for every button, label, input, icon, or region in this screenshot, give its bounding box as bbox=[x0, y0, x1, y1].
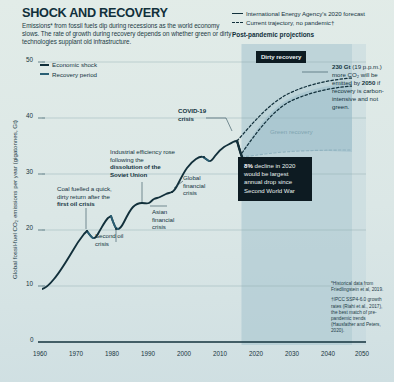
legend-label-current: Current trajectory, no pandemic† bbox=[246, 18, 334, 27]
x-tick-2040: 2040 bbox=[321, 350, 335, 357]
dashed-line-swatch-icon bbox=[232, 22, 243, 23]
x-tick-1980: 1980 bbox=[105, 350, 119, 357]
legend-label-recovery: Recovery period bbox=[52, 70, 97, 80]
legend-projections-heading: Post-pandemic projections bbox=[232, 31, 392, 38]
callout-230gt-year: 2050 bbox=[362, 79, 376, 86]
callout-230gt-value: 230 Gt bbox=[332, 63, 351, 70]
legend-item-recovery-period: Recovery period bbox=[40, 70, 97, 80]
x-tick-1960: 1960 bbox=[33, 350, 47, 357]
y-tick-0: 0 bbox=[30, 336, 34, 343]
footnote-historical-data: *Historical data from Friedlingstein et … bbox=[331, 281, 389, 293]
annotation-soviet-text: Industrial efficiency rose following the bbox=[110, 148, 175, 163]
annotation-coal-first-oil-crisis: Coal fuelled a quick, dirty return after… bbox=[57, 185, 115, 208]
legend-item-current-trajectory: Current trajectory, no pandemic† bbox=[232, 18, 392, 27]
legend-top: International Energy Agency's 2020 forec… bbox=[232, 9, 392, 38]
x-tick-2030: 2030 bbox=[285, 350, 299, 357]
annotation-global-financial-crisis: Global financial crisis bbox=[183, 174, 219, 197]
y-tick-50: 50 bbox=[26, 56, 33, 63]
y-tick-30: 30 bbox=[26, 168, 33, 175]
y-tick-40: 40 bbox=[26, 112, 33, 119]
footnote-ipcc-ssp: †IPCC SSP4-6.0 growth rates (Riahi et al… bbox=[331, 297, 389, 334]
callout-decline-value: 8% bbox=[244, 162, 253, 169]
solid-line-swatch-icon bbox=[232, 13, 243, 15]
x-tick-2020: 2020 bbox=[249, 350, 263, 357]
dirty-recovery-label: Dirty recovery bbox=[256, 51, 306, 63]
legend-item-iea: International Energy Agency's 2020 forec… bbox=[232, 9, 392, 18]
green-recovery-label: Green recovery bbox=[270, 128, 313, 135]
y-axis-title: Global fossil-fuel CO₂ emissions per yea… bbox=[11, 100, 18, 300]
chart-figure: SHOCK AND RECOVERY Emissions* from fossi… bbox=[0, 0, 394, 382]
annotation-asian-financial-crisis: Asian financial crisis bbox=[152, 208, 188, 231]
legend-left: Economic shock Recovery period bbox=[40, 60, 97, 79]
economic-shock-swatch-icon bbox=[40, 64, 49, 66]
annotation-coal-text: Coal fuelled a quick, dirty return after… bbox=[57, 185, 112, 200]
annotation-coal-bold: first oil crisis bbox=[57, 200, 95, 207]
footnotes-block: *Historical data from Friedlingstein et … bbox=[331, 281, 389, 339]
annotation-second-oil-crisis: Second oil crisis bbox=[95, 232, 135, 247]
x-tick-2010: 2010 bbox=[213, 350, 227, 357]
y-tick-marks bbox=[38, 62, 45, 286]
annotation-covid-crisis: COVID-19 crisis bbox=[178, 107, 218, 122]
legend-label-shock: Economic shock bbox=[52, 60, 97, 70]
x-tick-1970: 1970 bbox=[69, 350, 83, 357]
y-tick-20: 20 bbox=[26, 224, 33, 231]
annotation-soviet-bold: dissolution of the Soviet Union bbox=[110, 163, 161, 178]
recovery-period-swatch-icon bbox=[40, 73, 49, 75]
y-tick-10: 10 bbox=[26, 280, 33, 287]
standfirst-text: Emissions* from fossil fuels dip during … bbox=[22, 22, 232, 47]
callout-2020-decline: 8% decline in 2020 would be largest annu… bbox=[238, 157, 312, 201]
legend-item-economic-shock: Economic shock bbox=[40, 60, 97, 70]
x-tick-1990: 1990 bbox=[141, 350, 155, 357]
legend-label-iea: International Energy Agency's 2020 forec… bbox=[246, 9, 365, 18]
callout-230gt: 230 Gt (19 p.p.m.) more CO₂ will be emit… bbox=[332, 63, 390, 111]
x-tick-2050: 2050 bbox=[355, 350, 369, 357]
x-tick-2000: 2000 bbox=[177, 350, 191, 357]
annotation-soviet-union: Industrial efficiency rose following the… bbox=[110, 148, 176, 178]
